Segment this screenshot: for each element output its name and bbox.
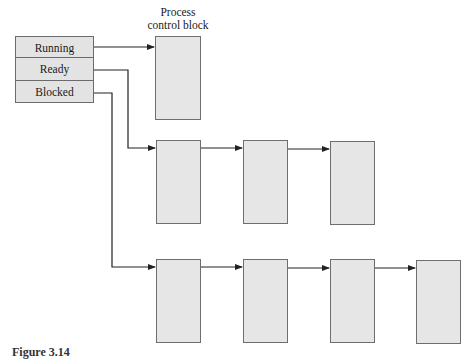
figure-caption: Figure 3.14 xyxy=(12,345,70,360)
arrow-blocked xyxy=(94,93,155,267)
arrow-ready xyxy=(94,70,155,148)
